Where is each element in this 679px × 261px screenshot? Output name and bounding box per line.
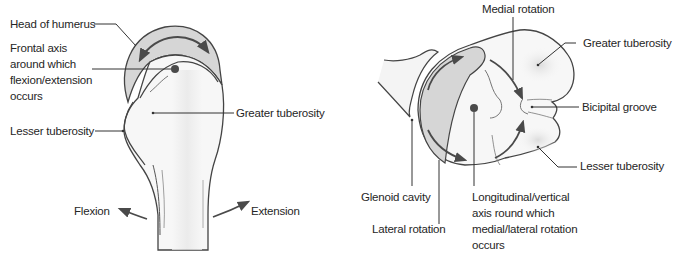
label-extension: Extension [251,203,300,219]
label-frontal-axis-1: Frontal axis [10,40,67,56]
label-lesser-tuberosity-right: Lesser tuberosity [580,158,664,174]
label-bicipital-groove: Bicipital groove [582,99,657,115]
label-longitudinal-axis-4: occurs [472,237,505,253]
label-head-of-humerus: Head of humerus [10,16,95,32]
label-greater-tuberosity-left: Greater tuberosity [236,105,324,121]
humerus-movement-diagram: Head of humerus Frontal axis around whic… [0,0,679,261]
label-flexion: Flexion [74,203,110,219]
label-greater-tuberosity-right: Greater tuberosity [583,35,671,51]
label-frontal-axis-4: occurs [10,88,43,104]
extension-arrow [213,202,248,217]
longitudinal-axis-dot [470,104,478,112]
label-frontal-axis-2: around which [10,56,76,72]
label-lesser-tuberosity-left: Lesser tuberosity [10,123,94,139]
label-longitudinal-axis-3: medial/lateral rotation [472,221,577,237]
label-medial-rotation: Medial rotation [482,1,554,17]
flexion-arrow [120,209,147,219]
label-longitudinal-axis-2: axis round which [472,205,554,221]
label-longitudinal-axis-1: Longitudinal/vertical [472,189,569,205]
label-glenoid-cavity: Glenoid cavity [361,189,430,205]
frontal-axis-dot [171,65,179,73]
left-humerus-figure [92,24,248,250]
label-frontal-axis-3: flexion/extension [10,72,92,88]
label-lateral-rotation: Lateral rotation [372,221,446,237]
